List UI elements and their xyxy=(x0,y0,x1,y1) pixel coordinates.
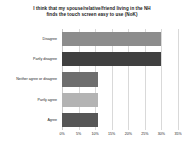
bar-row xyxy=(62,113,178,127)
bar-row xyxy=(62,32,178,46)
bar-partly-disagree[interactable] xyxy=(62,52,161,66)
gridline-35pct xyxy=(178,29,179,130)
x-tick-label: 15% xyxy=(108,132,115,136)
chart-title-line-1: I think that my spouse/relative/friend l… xyxy=(33,6,150,11)
y-axis-label-neither-agree-or-disagree: Neither agree or disagree xyxy=(1,77,57,81)
x-tick-label: 5% xyxy=(76,132,81,136)
bar-row xyxy=(62,52,178,66)
x-axis-tick-labels: 0%5%10%15%20%25%30%35% xyxy=(62,132,178,144)
x-tick-label: 20% xyxy=(125,132,132,136)
x-tick-label: 10% xyxy=(92,132,99,136)
y-axis-category-labels: DisagreePartly disagreeNeither agree or … xyxy=(0,29,60,130)
chart-title-line-2: finds the touch screen easy to use (NoK) xyxy=(46,12,137,17)
plot-area xyxy=(62,29,178,130)
y-axis-label-disagree: Disagree xyxy=(1,37,57,41)
bar-partly-agree[interactable] xyxy=(62,93,98,107)
y-axis-label-partly-agree: Partly agree xyxy=(1,98,57,102)
bar-row xyxy=(62,72,178,86)
x-tick-label: 35% xyxy=(174,132,181,136)
x-tick-label: 30% xyxy=(158,132,165,136)
x-tick-label: 0% xyxy=(59,132,64,136)
y-axis-label-agree: Agree xyxy=(1,118,57,122)
bar-series xyxy=(62,29,178,130)
y-axis-label-partly-disagree: Partly disagree xyxy=(1,57,57,61)
bar-chart-figure: I think that my spouse/relative/friend l… xyxy=(0,0,182,154)
bar-disagree[interactable] xyxy=(62,32,161,46)
bar-row xyxy=(62,93,178,107)
bar-agree[interactable] xyxy=(62,113,98,127)
x-tick-label: 25% xyxy=(141,132,148,136)
chart-title: I think that my spouse/relative/friend l… xyxy=(14,6,170,18)
bar-neither-agree-or-disagree[interactable] xyxy=(62,72,98,86)
